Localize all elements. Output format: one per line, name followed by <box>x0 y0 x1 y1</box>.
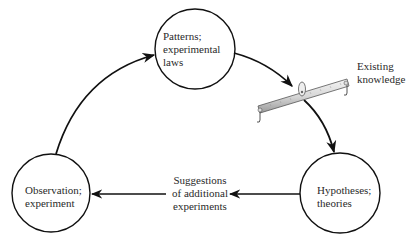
balance-beam-icon <box>257 79 349 122</box>
node-observation-label: Observation; experiment <box>25 184 82 210</box>
arrow-patterns-to-knowledge <box>234 53 292 86</box>
label-line: experiments <box>169 200 231 213</box>
node-patterns-label: Patterns; experimental laws <box>163 30 220 69</box>
arrow-knowledge-to-hypotheses <box>304 100 334 152</box>
node-hypotheses-label: Hypotheses; theories <box>317 184 371 210</box>
label-line: Hypotheses; <box>317 184 371 197</box>
label-line: Observation; <box>25 184 82 197</box>
existing-knowledge-label: Existing knowledge <box>357 60 405 86</box>
label-line: Patterns; <box>163 30 220 43</box>
arrow-observation-to-patterns <box>56 55 154 154</box>
label-line: laws <box>163 56 220 69</box>
suggestions-label: Suggestions of additional experiments <box>169 174 231 213</box>
label-line: experimental <box>163 43 220 56</box>
label-line: experiment <box>25 197 82 210</box>
label-line: Existing <box>357 60 405 73</box>
label-line: Suggestions <box>169 174 231 187</box>
label-line: of additional <box>169 187 231 200</box>
label-line: theories <box>317 197 371 210</box>
label-line: knowledge <box>357 73 405 86</box>
